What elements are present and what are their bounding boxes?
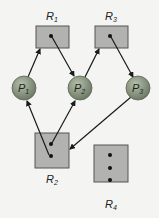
- resource-label-r1: R1: [46, 10, 58, 23]
- process-p1: P1: [12, 76, 36, 100]
- instance-dot: [108, 178, 112, 182]
- edge-p1-r1: [28, 49, 40, 77]
- resource-label-r4: R4: [105, 198, 117, 211]
- instance-dot: [49, 154, 53, 158]
- edge-p3-r2: [70, 97, 131, 149]
- resource-r3: R3: [95, 10, 128, 48]
- edge-p2-r3: [85, 49, 99, 77]
- resource-label-r3: R3: [105, 10, 117, 23]
- resource-label-r2: R2: [46, 173, 58, 186]
- resource-r2: R2: [35, 133, 69, 186]
- process-p2: P2: [68, 76, 92, 100]
- resource-r1: R1: [36, 10, 69, 48]
- resource-allocation-graph: R1 R3 R2 R4 P1 P2 P3: [0, 0, 159, 218]
- instance-dot: [108, 153, 112, 157]
- process-p3: P3: [126, 76, 150, 100]
- instance-dot: [108, 166, 112, 170]
- resource-r4: R4: [94, 145, 128, 211]
